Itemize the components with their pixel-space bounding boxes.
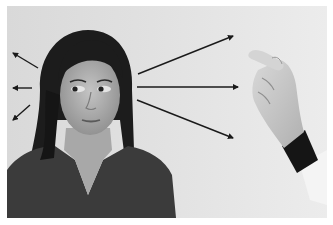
arrows-right (137, 36, 238, 138)
arrow-right-down (137, 100, 233, 138)
photo-scene (7, 6, 327, 218)
arrow-right-up (138, 36, 233, 74)
arrow-left-down (13, 105, 30, 120)
arrow-left-up (13, 53, 38, 68)
woman (7, 30, 176, 218)
photograph (7, 6, 327, 218)
arrows-left (13, 53, 38, 120)
pointing-hand (248, 50, 327, 205)
hand (252, 60, 304, 148)
